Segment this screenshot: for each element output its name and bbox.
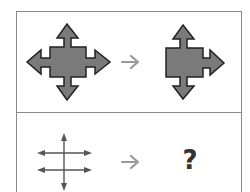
four-way-arrow-square-icon bbox=[27, 24, 110, 100]
right-arrow-icon bbox=[122, 56, 138, 68]
unknown-answer-label: ? bbox=[178, 145, 202, 175]
double-horizontal-cross-arrows-icon bbox=[37, 133, 92, 191]
puzzle-canvas bbox=[0, 0, 250, 192]
right-arrow-icon bbox=[122, 156, 138, 168]
three-way-arrow-square-icon bbox=[166, 25, 224, 99]
